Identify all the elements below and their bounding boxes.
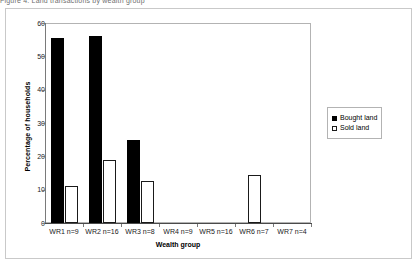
y-tick-mark: [42, 156, 45, 157]
x-tick-mark: [121, 224, 122, 227]
x-tick-mark: [159, 224, 160, 227]
bar-sold-land: [248, 175, 261, 223]
bar-group: [122, 23, 160, 223]
x-tick-mark: [311, 224, 312, 227]
bar-bought-land: [51, 38, 64, 223]
y-tick-mark: [42, 23, 45, 24]
bar-group: [160, 23, 198, 223]
bar-group: [273, 23, 311, 223]
bars-layer: [46, 23, 311, 223]
cut-off-caption-text: Figure 4. Land transactions by wealth gr…: [0, 0, 145, 4]
figure-frame: 0102030405060 Percentage of households W…: [5, 8, 412, 259]
y-tick-mark: [42, 223, 45, 224]
x-tick-label: WR6 n=7: [235, 228, 273, 240]
chart-legend: Bought landSold land: [327, 107, 382, 139]
bar-group: [46, 23, 84, 223]
bar-sold-land: [141, 181, 154, 223]
bar-sold-land: [65, 186, 78, 223]
x-tick-label: WR3 n=8: [121, 228, 159, 240]
x-axis-line: [45, 223, 312, 224]
x-tick-label: WR5 n=16: [197, 228, 235, 240]
y-tick-mark: [42, 90, 45, 91]
y-tick-mark: [42, 123, 45, 124]
x-tick-label: WR2 n=16: [83, 228, 121, 240]
legend-item[interactable]: Sold land: [332, 123, 377, 133]
y-tick-label: 60: [11, 20, 45, 27]
bar-sold-land: [103, 160, 116, 223]
legend-swatch-bought-land-icon: [332, 116, 337, 121]
bar-group: [84, 23, 122, 223]
bar-group: [197, 23, 235, 223]
cut-off-caption: Figure 4. Land transactions by wealth gr…: [0, 0, 418, 6]
x-tick-mark: [235, 224, 236, 227]
x-tick-label: WR4 n=9: [159, 228, 197, 240]
y-tick-mark: [42, 190, 45, 191]
legend-swatch-sold-land-icon: [332, 126, 337, 131]
x-tick-label: WR7 n=4: [273, 228, 311, 240]
bar-bought-land: [89, 36, 102, 223]
x-axis-title: Wealth group: [45, 241, 311, 248]
bar-bought-land: [127, 140, 140, 223]
legend-label: Sold land: [340, 124, 369, 132]
y-tick-mark: [42, 56, 45, 57]
y-axis-title: Percentage of households: [24, 57, 31, 197]
y-tick-label: 0: [11, 220, 45, 227]
x-tick-mark: [273, 224, 274, 227]
legend-item[interactable]: Bought land: [332, 113, 377, 123]
x-tick-mark: [197, 224, 198, 227]
legend-label: Bought land: [340, 114, 377, 122]
bar-chart: 0102030405060 Percentage of households W…: [6, 9, 413, 260]
x-tick-mark: [83, 224, 84, 227]
x-axis-labels: WR1 n=9WR2 n=16WR3 n=8WR4 n=9WR5 n=16WR6…: [45, 228, 311, 240]
x-tick-label: WR1 n=9: [45, 228, 83, 240]
bar-group: [235, 23, 273, 223]
